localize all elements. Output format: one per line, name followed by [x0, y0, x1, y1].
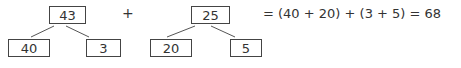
connector-43-40 — [31, 26, 54, 37]
tree-right-right-child-box: 5 — [230, 39, 262, 57]
tree-right-root-box: 25 — [191, 6, 230, 24]
tree-right-left-child-box: 20 — [150, 39, 192, 57]
equation-text: = (40 + 20) + (3 + 5) = 68 — [263, 6, 441, 21]
tree-left-left-child-box: 40 — [8, 39, 50, 57]
plus-operator: + — [122, 5, 134, 21]
connector-25-5 — [211, 26, 235, 37]
tree-left-root-box: 43 — [49, 6, 86, 24]
connector-43-3 — [66, 26, 89, 37]
tree-left-right-child-box: 3 — [86, 39, 121, 57]
connector-25-20 — [167, 26, 195, 37]
